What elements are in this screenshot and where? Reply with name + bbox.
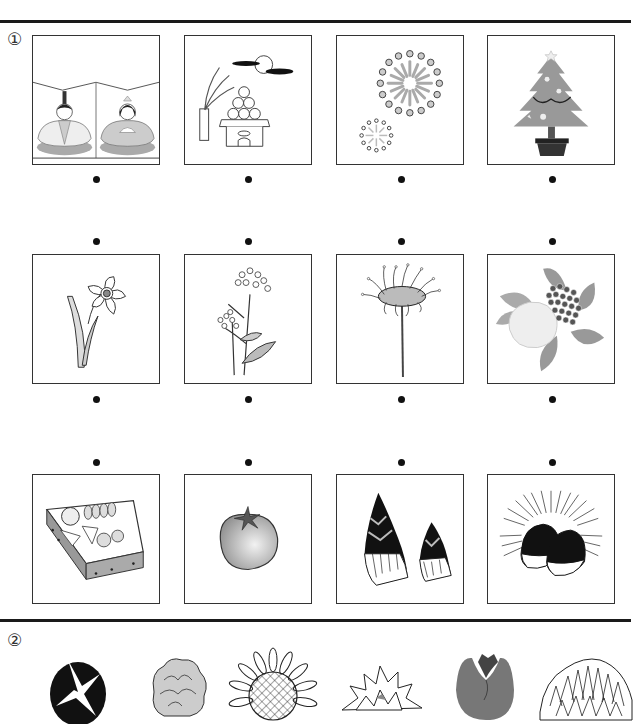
match-dot[interactable] [93,396,100,403]
match-dot[interactable] [549,238,556,245]
flower-tulip: Tulip [444,650,534,720]
match-dot[interactable] [549,176,556,183]
chrysanthemum-icon [536,650,636,720]
match-dot[interactable] [245,176,252,183]
fireworks-icon [337,36,463,164]
match-dot[interactable] [93,238,100,245]
card-christmas-tree: Christmas tree [487,35,615,165]
question-2-label: ② [7,632,22,649]
card-hina-dolls: Hina dolls (Hinamatsuri) [32,35,160,165]
chestnut-icon [488,475,614,603]
dahlia-icon [336,650,426,720]
card-daffodil: Daffodil [32,254,160,384]
flower-dahlia: Dahlia [336,650,426,720]
christmas-tree-icon [488,36,614,164]
card-rapeseed: Rapeseed blossom [184,254,312,384]
spider-lily-icon [337,255,463,383]
match-dot[interactable] [398,238,405,245]
match-dot[interactable] [93,459,100,466]
match-dot[interactable] [398,459,405,466]
daffodil-icon [33,255,159,383]
bamboo-shoot-icon [337,475,463,603]
hydrangea-icon [488,255,614,383]
card-chestnut: Chestnuts in burr [487,474,615,604]
match-dot[interactable] [245,459,252,466]
card-hydrangea: Hydrangea [487,254,615,384]
card-bamboo-shoot: Bamboo shoots [336,474,464,604]
match-dot[interactable] [245,238,252,245]
card-red-spider-lily: Red spider lily [336,254,464,384]
sunflower-icon [228,650,318,720]
flower-sunflower: Sunflower [228,650,318,720]
section-divider [0,619,631,622]
match-dot[interactable] [245,396,252,403]
card-fireworks: Fireworks [336,35,464,165]
card-tomato: Tomato [184,474,312,604]
question-1-label: ① [7,31,22,48]
match-dot[interactable] [398,396,405,403]
tulip-icon [444,650,534,720]
card-tsukimi: Moon viewing dango and pampas grass [184,35,312,165]
morning-glory-icon [34,650,124,720]
top-rule [0,20,631,23]
match-dot[interactable] [549,459,556,466]
flower-marigold: Marigold [134,650,224,720]
tsukimi-icon [185,36,311,164]
marigold-icon [134,650,224,720]
flower-morning-glory: Morning glory [34,650,124,720]
match-dot[interactable] [398,176,405,183]
tomato-icon [185,475,311,603]
match-dot[interactable] [549,396,556,403]
hina-dolls-icon [33,36,159,164]
card-osechi: Osechi box [32,474,160,604]
osechi-box-icon [33,475,159,603]
match-dot[interactable] [93,176,100,183]
rapeseed-icon [185,255,311,383]
flower-chrysanthemum: Chrysanthemum [536,650,636,720]
